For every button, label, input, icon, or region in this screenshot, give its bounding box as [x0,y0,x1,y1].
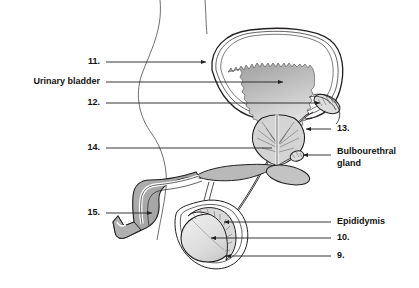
label-12[interactable]: 12. [87,97,100,107]
label-15[interactable]: 15. [87,207,100,217]
label-urinary-bladder[interactable]: Urinary bladder [33,76,100,86]
anatomy-diagram: 11. Urinary bladder 12. 14. 15. 13. Bulb… [0,0,419,288]
label-10[interactable]: 10. [337,232,350,242]
label-9[interactable]: 9. [337,250,345,260]
label-group-right: 13. Bulbourethral gland Epididymis 10. 9… [337,123,396,260]
label-epididymis[interactable]: Epididymis [337,216,385,226]
label-13[interactable]: 13. [337,123,350,133]
label-14[interactable]: 14. [87,142,100,152]
label-11[interactable]: 11. [88,56,100,66]
label-bulbourethral-gland-line2[interactable]: gland [337,158,361,168]
label-bulbourethral-gland-line1[interactable]: Bulbourethral [337,146,396,156]
label-group-left: 11. Urinary bladder 12. 14. 15. [33,56,100,217]
